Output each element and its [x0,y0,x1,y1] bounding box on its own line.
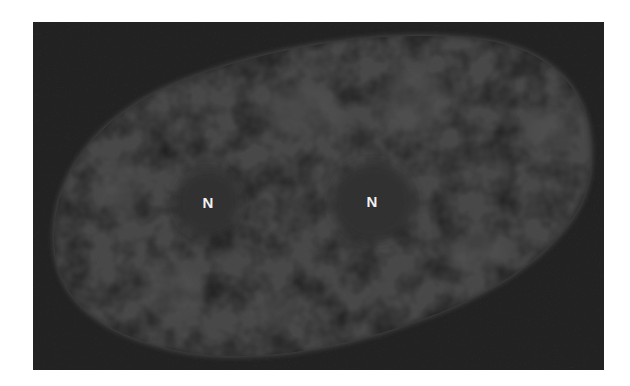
micrograph-image: N N [33,22,604,370]
nucleolus-label-right: N [367,194,378,209]
nucleus-graphic [33,22,604,370]
nucleolus-label-left: N [203,195,214,210]
